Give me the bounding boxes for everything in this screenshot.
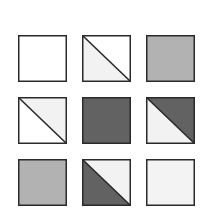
square-fill xyxy=(19,36,67,82)
cell-r1-c3 xyxy=(146,35,195,82)
cell-r2-c2 xyxy=(82,97,131,144)
square-fill xyxy=(147,36,195,82)
cell-r3-c2 xyxy=(82,159,131,206)
pattern-grid xyxy=(0,0,211,222)
square-fill xyxy=(19,160,67,206)
cell-r3-c1 xyxy=(18,159,67,206)
cell-r3-c3 xyxy=(146,159,195,206)
cell-r1-c2 xyxy=(82,35,131,82)
cell-r1-c1 xyxy=(18,35,67,82)
cell-r2-c3 xyxy=(146,97,195,144)
square-fill xyxy=(147,160,195,206)
cell-r2-c1 xyxy=(18,97,67,144)
square-fill xyxy=(83,98,131,144)
